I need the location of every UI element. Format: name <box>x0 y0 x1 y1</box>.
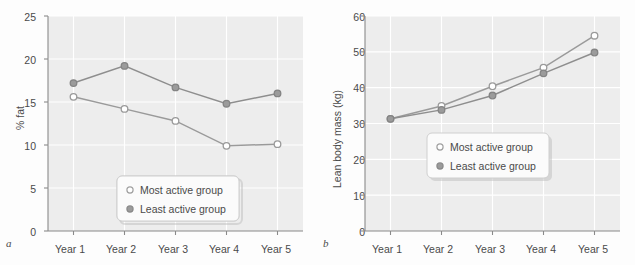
panel-a-legend-label-least-active: Least active group <box>140 203 226 215</box>
data-point-least-active <box>591 49 598 56</box>
panel-b-legend-label-most-active: Most active group <box>450 141 533 153</box>
panel-a-plot: Most active group Least active group <box>0 0 318 265</box>
panel-a-legend-marker-most-active <box>127 187 133 193</box>
panel-b-y-tickmarks <box>361 16 365 231</box>
data-point-least-active <box>387 116 394 123</box>
data-point-most-active <box>70 94 77 101</box>
panel-b-legend-marker-least-active <box>437 163 443 169</box>
panel-b-legend-marker-most-active <box>437 144 443 150</box>
panel-b-x-tickmarks <box>391 231 595 235</box>
data-point-most-active <box>274 141 281 148</box>
data-point-most-active <box>223 143 230 150</box>
data-point-least-active <box>540 70 547 77</box>
data-point-most-active <box>591 32 598 39</box>
data-point-least-active <box>121 63 128 70</box>
data-point-most-active <box>489 83 496 90</box>
panel-a-legend: Most active group Least active group <box>117 176 242 224</box>
figure-two-panel-line-charts: a % fat 25 20 15 10 5 0 Year 1 Year 2 Ye… <box>0 0 635 265</box>
panel-a: a % fat 25 20 15 10 5 0 Year 1 Year 2 Ye… <box>0 0 318 265</box>
data-point-least-active <box>438 107 445 114</box>
panel-a-y-tickmarks <box>44 16 48 231</box>
data-point-least-active <box>172 84 179 91</box>
panel-b: b Lean body mass (kg) 60 50 40 30 20 10 … <box>317 0 635 265</box>
panel-a-legend-label-most-active: Most active group <box>140 184 223 196</box>
panel-a-legend-marker-least-active <box>127 206 133 212</box>
data-point-most-active <box>121 106 128 113</box>
panel-b-legend-label-least-active: Least active group <box>450 160 536 172</box>
data-point-most-active <box>172 118 179 125</box>
data-point-least-active <box>223 100 230 107</box>
data-point-least-active <box>489 92 496 99</box>
data-point-least-active <box>70 80 77 87</box>
panel-b-legend: Most active group Least active group <box>427 133 552 181</box>
panel-a-x-tickmarks <box>74 231 278 235</box>
data-point-least-active <box>274 90 281 97</box>
panel-b-plot: Most active group Least active group <box>317 0 635 265</box>
